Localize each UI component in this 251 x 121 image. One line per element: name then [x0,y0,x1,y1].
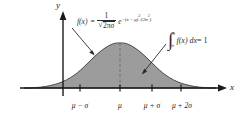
pdf-formula: f(x) = 1 √ 2πσ e −(x − μ)2/(2σ2) [77,12,151,31]
radical-sigma: σ [111,21,115,30]
pdf-formula-lhs: f(x) [77,18,87,26]
integral-lower-limit: −∞ [169,44,176,49]
tick-label-mu: μ [118,102,122,110]
tick-label-mu-plus-sigma: μ + σ [144,102,160,110]
radical: √ 2πσ [98,21,115,31]
y-axis-arrowhead [60,11,67,20]
integral-body: f(x) dx [176,37,197,45]
exp-denominator: /(2σ [140,17,148,22]
radical-body-text: 2π [103,21,111,30]
exp-numerator-power: 2 [138,13,140,18]
integral-equals-one: = 1 [197,37,208,45]
pdf-formula-denominator: √ 2πσ [97,21,116,31]
tick-label-mu-plus-2sigma: μ + 2σ [172,102,192,110]
pdf-leader-arrow [72,28,95,56]
exp-numerator: −(x − μ) [122,17,139,22]
y-axis-label: y [56,1,60,10]
integral-upper-limit: ∞ [172,32,175,37]
exp-denominator-power: 2 [148,13,150,18]
integral-limits: ∞ −∞ [172,32,175,49]
pdf-formula-fraction: 1 √ 2πσ [97,12,116,31]
tick-label-mu-minus-sigma: μ − σ [72,102,88,110]
integral-formula: ∫ ∞ −∞ f(x) dx = 1 [168,32,208,49]
pdf-formula-exponent: −(x − μ)2/(2σ2) [122,15,152,22]
pdf-formula-equals: = [90,18,94,26]
pdf-formula-numerator: 1 [103,12,111,20]
radical-body: 2πσ [103,21,115,31]
x-axis-arrowhead [218,85,227,92]
normal-distribution-figure: y x μ − σ μ μ + σ μ + 2σ f(x) = 1 √ 2πσ … [0,0,251,121]
x-axis-label: x [230,83,234,92]
